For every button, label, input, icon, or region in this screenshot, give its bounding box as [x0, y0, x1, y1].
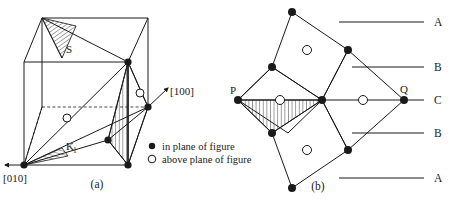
vertex-Q-label: Q: [400, 83, 408, 95]
stacking-row-A-top: A: [339, 16, 443, 28]
filled-circle-node-P: [234, 96, 242, 104]
stacking-row-C: C: [408, 94, 442, 106]
panel-b: P Q A B C B A (b): [230, 8, 443, 193]
plane-S-label: S: [66, 43, 72, 55]
panel-b-caption: (b): [311, 180, 325, 193]
axis-010-label: [010]: [3, 172, 27, 184]
legend-open-circle-icon: [148, 155, 156, 163]
plane-K1-subscript: 1: [73, 146, 77, 155]
filled-circle-node: [124, 58, 131, 65]
stacking-row-A-bottom: A: [339, 172, 443, 184]
legend-filled-circle-icon: [149, 143, 155, 149]
filled-circle-node: [124, 161, 131, 168]
stacking-row-label: A: [434, 172, 443, 184]
symbol-legend: in plane of figure above plane of figure: [148, 141, 252, 165]
stacking-row-B-lower: B: [352, 127, 442, 139]
axis-100-label: [100]: [170, 85, 194, 97]
filled-circle-node: [318, 96, 326, 104]
plane-K1-label-group: K 1: [66, 140, 77, 155]
stacking-row-label: A: [434, 16, 443, 28]
panel-a-caption: (a): [91, 178, 104, 191]
filled-circle-node: [344, 146, 352, 154]
open-circle-node: [303, 46, 312, 55]
open-circle-node: [63, 114, 71, 122]
open-circle-node: [136, 89, 144, 97]
twin-element-edges: [24, 62, 148, 165]
open-circle-node: [276, 96, 285, 105]
open-circle-node: [303, 146, 312, 155]
plane-K1-wedge: [24, 148, 68, 165]
stacking-row-label: C: [434, 94, 442, 106]
axis-100-group: [100]: [148, 85, 194, 107]
open-circle-node: [359, 96, 368, 105]
vertex-P-label: P: [230, 84, 236, 96]
stacking-row-label: B: [434, 127, 442, 139]
figure-canvas: S K 1: [0, 0, 457, 199]
legend-label-above-plane: above plane of figure: [162, 154, 252, 165]
stacking-row-label: B: [434, 61, 442, 73]
filled-circle-node: [268, 129, 276, 137]
filled-circle-node: [344, 46, 352, 54]
crystallography-figure: S K 1: [0, 0, 457, 199]
filled-circle-node: [288, 8, 296, 16]
atoms-above-plane-panel-a: [63, 89, 144, 122]
panel-a: S K 1: [3, 18, 194, 191]
plane-K1-region: [108, 62, 128, 165]
filled-circle-node: [104, 136, 111, 143]
stacking-row-B-upper: B: [352, 61, 442, 73]
filled-circle-node: [288, 184, 296, 192]
axis-100-arrow: [148, 88, 168, 107]
legend-label-in-plane: in plane of figure: [162, 141, 235, 152]
filled-circle-node-Q: [400, 96, 408, 104]
filled-circle-node: [268, 63, 276, 71]
